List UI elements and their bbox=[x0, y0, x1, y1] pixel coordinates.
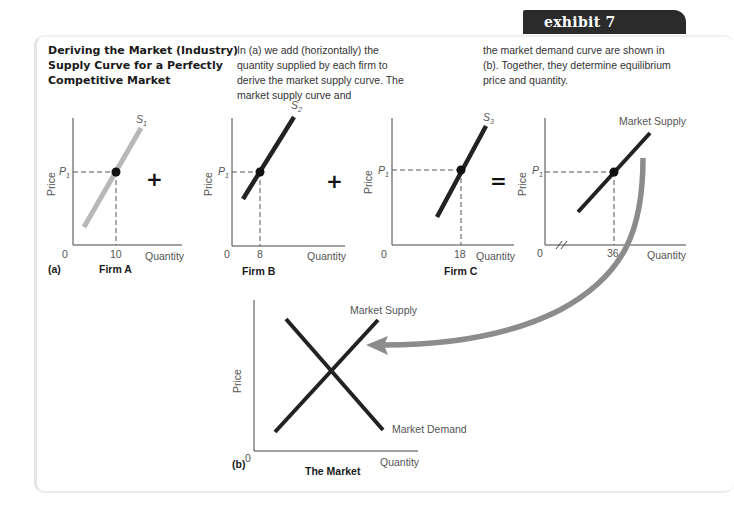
origin-label: 0 bbox=[224, 248, 230, 260]
supply-label: Market Supply bbox=[350, 304, 418, 316]
quantity-value: 10 bbox=[110, 248, 122, 260]
equilibrium-point bbox=[457, 166, 466, 175]
chart-firm-a: S1 P1 Price 0 10 Quantity (a) Firm A bbox=[45, 113, 185, 275]
part-label-b: (b) bbox=[232, 458, 245, 470]
price-label: P1 bbox=[59, 165, 70, 179]
y-axis-label: Price bbox=[362, 170, 374, 194]
x-axis-label: Quantity bbox=[647, 249, 687, 261]
chart-market-supply-sum: Market Supply P1 Price 0 36 Quantity bbox=[516, 115, 687, 261]
origin-label: 0 bbox=[62, 248, 68, 260]
y-axis-label: Price bbox=[516, 172, 528, 196]
price-label: P1 bbox=[218, 165, 229, 179]
x-axis-label: Quantity bbox=[476, 250, 516, 262]
y-axis-label: Price bbox=[45, 172, 57, 196]
equals-operator: = bbox=[490, 169, 507, 193]
quantity-value: 8 bbox=[257, 248, 263, 260]
plus-operator: + bbox=[146, 167, 163, 191]
origin-label: 0 bbox=[245, 452, 251, 464]
market-supply-curve bbox=[275, 320, 378, 432]
firm-name: Firm C bbox=[444, 265, 478, 277]
x-axis-label: Quantity bbox=[307, 250, 347, 262]
equilibrium-point bbox=[256, 168, 265, 177]
curve-label: S3 bbox=[483, 111, 494, 125]
price-label: P1 bbox=[378, 164, 389, 178]
y-axis-label: Price bbox=[202, 172, 214, 196]
quantity-value: 18 bbox=[454, 248, 466, 260]
chart-firm-c: S3 P1 Price 0 18 Quantity Firm C bbox=[362, 111, 516, 277]
y-axis-label: Price bbox=[231, 369, 243, 393]
supply-curve-s1 bbox=[84, 128, 141, 227]
firm-name: Firm A bbox=[99, 263, 132, 275]
curve-label: S1 bbox=[136, 113, 147, 127]
chart-the-market: Market Supply Market Demand Price 0 Quan… bbox=[231, 300, 467, 477]
curve-label: S2 bbox=[291, 99, 302, 113]
demand-label: Market Demand bbox=[392, 423, 467, 435]
equilibrium-point bbox=[610, 168, 619, 177]
supply-curve-s2 bbox=[243, 117, 294, 199]
market-name: The Market bbox=[305, 465, 361, 477]
origin-label: 0 bbox=[537, 247, 543, 259]
quantity-value: 36 bbox=[607, 247, 619, 259]
equilibrium-point bbox=[112, 168, 121, 177]
x-axis-label: Quantity bbox=[380, 456, 420, 468]
part-label-a: (a) bbox=[48, 263, 61, 275]
plus-operator: + bbox=[326, 169, 343, 193]
market-demand-curve bbox=[286, 319, 383, 430]
firm-name: Firm B bbox=[242, 265, 276, 277]
origin-label: 0 bbox=[381, 248, 387, 260]
curve-label: Market Supply bbox=[619, 115, 687, 127]
price-label: P1 bbox=[532, 164, 543, 178]
x-axis-label: Quantity bbox=[145, 250, 185, 262]
